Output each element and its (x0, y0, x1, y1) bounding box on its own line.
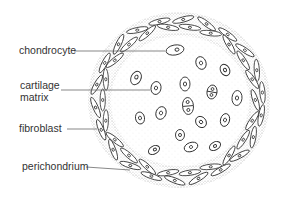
perichondrium-ring (88, 12, 270, 188)
label-cartilage-matrix-line1: cartilage (20, 80, 60, 91)
label-perichondrium: perichondrium (22, 161, 89, 172)
label-chondrocyte: chondrocyte (19, 45, 76, 56)
label-cartilage-matrix-line2: matrix (20, 92, 49, 103)
label-fibroblast: fibroblast (19, 123, 62, 134)
